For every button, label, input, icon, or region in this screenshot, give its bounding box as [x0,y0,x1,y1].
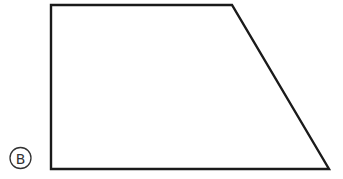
label-letter: B [16,151,26,167]
trapezoid-outline [51,5,329,169]
option-label-b: B [10,148,31,169]
trapezoid-figure: B [0,0,343,179]
